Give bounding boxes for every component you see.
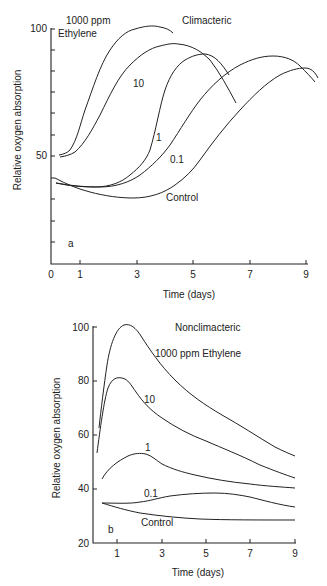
chart-a-panel-label: a — [68, 238, 74, 249]
chart-b-title: Nonclimacteric — [175, 322, 241, 333]
chart-b-curve-1 — [102, 453, 295, 488]
chart-b-label-1000ppm: 1000 ppm Ethylene — [155, 348, 242, 359]
chart-b-x-ticks — [117, 539, 295, 543]
chart-a-curve-10 — [60, 44, 236, 157]
chart-a-xtick-5: 5 — [190, 269, 196, 280]
chart-b-xtick-1: 1 — [114, 548, 120, 559]
chart-a-label-1000ppm-line2: Ethylene — [58, 28, 97, 39]
chart-a-ytick-50: 50 — [36, 150, 48, 161]
chart-b-ytick-40: 40 — [78, 483, 90, 494]
chart-a-label-0-1: 0.1 — [170, 154, 184, 165]
chart-a-y-ticks — [51, 29, 55, 242]
chart-b-label-10: 10 — [144, 394, 156, 405]
chart-a: 100 50 0 1 3 5 7 9 Time (days) Relative … — [12, 15, 318, 300]
chart-a-axes — [51, 28, 308, 264]
chart-b-ytick-100: 100 — [72, 322, 89, 333]
chart-b-xtick-7: 7 — [247, 548, 253, 559]
chart-a-x-ticks — [80, 260, 306, 264]
chart-a-label-control: Control — [166, 192, 198, 203]
chart-b-ytick-60: 60 — [78, 429, 90, 440]
chart-b-label-control: Control — [141, 517, 173, 528]
chart-b-label-1: 1 — [145, 442, 151, 453]
chart-b-curve-control — [102, 503, 295, 520]
chart-b-panel-label: b — [108, 524, 114, 535]
chart-a-xtick-7: 7 — [247, 269, 253, 280]
chart-b-ytick-80: 80 — [78, 375, 90, 386]
chart-b-label-0-1: 0.1 — [144, 488, 158, 499]
chart-b-curve-10 — [97, 378, 295, 478]
chart-a-xtick-0: 0 — [48, 269, 54, 280]
figure: 100 50 0 1 3 5 7 9 Time (days) Relative … — [0, 0, 327, 586]
chart-a-title: Climacteric — [182, 15, 231, 26]
chart-b-y-ticks — [93, 327, 97, 489]
chart-b: 100 80 60 40 20 1 3 5 7 9 Time (days) Re… — [51, 322, 298, 578]
chart-b-curve-0-1 — [102, 493, 295, 507]
chart-b-xtick-3: 3 — [159, 548, 165, 559]
chart-a-label-1000ppm-line1: 1000 ppm — [66, 15, 110, 26]
chart-a-label-1: 1 — [156, 132, 162, 143]
chart-b-curve-1000ppm — [99, 325, 295, 456]
chart-b-xtick-5: 5 — [203, 548, 209, 559]
chart-b-ylabel: Relative oxygen absorption — [51, 378, 62, 499]
chart-a-xtick-3: 3 — [134, 269, 140, 280]
chart-a-xtick-9: 9 — [303, 269, 309, 280]
chart-a-ytick-100: 100 — [30, 23, 47, 34]
chart-a-xlabel: Time (days) — [163, 289, 215, 300]
chart-a-xtick-1: 1 — [77, 269, 83, 280]
chart-a-curve-0-1 — [56, 56, 315, 187]
chart-a-label-10: 10 — [133, 78, 145, 89]
chart-b-xtick-9: 9 — [292, 548, 298, 559]
chart-b-ytick-20: 20 — [78, 538, 90, 549]
chart-a-curve-control — [55, 68, 318, 198]
chart-a-ylabel: Relative oxygen absorption — [12, 70, 23, 191]
chart-b-xlabel: Time (days) — [172, 567, 224, 578]
